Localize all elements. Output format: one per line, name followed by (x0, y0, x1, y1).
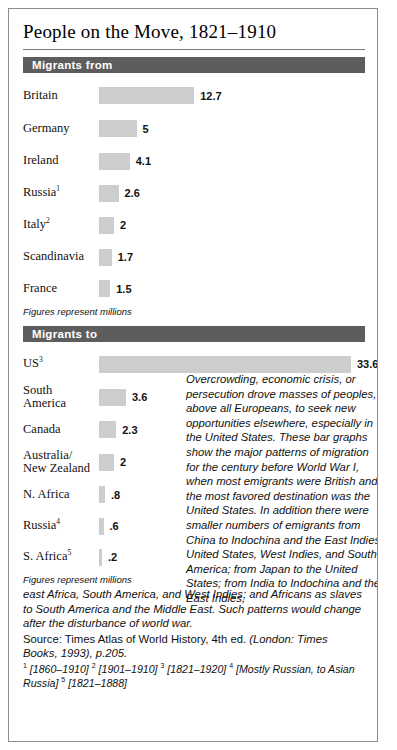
source-prefix: Source: Times Atlas of World History, 4t… (23, 633, 249, 645)
bar-label-footnote-marker: 2 (46, 216, 50, 225)
bar-track: 4.1 (99, 153, 365, 170)
footnote-2: [1901–1910] (99, 663, 158, 675)
bar-value-label: 33.6 (357, 358, 378, 370)
bar-label-footnote-marker: 3 (39, 355, 43, 364)
footnote-marker-4: 4 (229, 662, 233, 669)
bar-category-label: France (23, 282, 99, 296)
bar-label-footnote-marker: 1 (56, 184, 60, 193)
bar (99, 185, 119, 202)
bar-value-label: 5 (143, 123, 149, 135)
bar (99, 454, 114, 471)
bar-label-footnote-marker: 5 (67, 548, 71, 557)
bar-label-footnote-marker: 4 (56, 517, 60, 526)
bar-category-label: Russia1 (23, 186, 99, 200)
bar-category-label: Scandinavia (23, 250, 99, 264)
bar-row: Russia12.6 (23, 177, 365, 209)
source-citation: Source: Times Atlas of World History, 4t… (23, 632, 365, 661)
bar-category-label: Germany (23, 122, 99, 136)
bar-row: Germany5 (23, 112, 365, 145)
bar (99, 120, 137, 137)
chart-migrants-from: Migrants from Britain12.7Germany5Ireland… (23, 57, 365, 317)
section-header-migrants-from: Migrants from (23, 57, 365, 73)
bar-value-label: 2.3 (122, 424, 137, 436)
bar-category-label: Ireland (23, 154, 99, 168)
bar (99, 249, 112, 266)
footnote-marker-1: 1 (23, 662, 27, 669)
bar-track: 1.7 (99, 249, 365, 266)
figure-title: People on the Move, 1821–1910 (23, 21, 365, 43)
bar-track: 5 (99, 120, 365, 137)
bar (99, 87, 194, 104)
bar-rows-migrants-from: Britain12.7Germany5Ireland4.1Russia12.6I… (23, 79, 365, 304)
bar-track: 2.6 (99, 185, 365, 202)
bar-value-label: .2 (108, 551, 117, 563)
bar-track: 2 (99, 217, 365, 234)
bar-value-label: 2 (120, 456, 126, 468)
bar-value-label: 2 (120, 219, 126, 231)
figure-inner: People on the Move, 1821–1910 Migrants f… (9, 21, 377, 690)
bar-value-label: 1.7 (118, 251, 133, 263)
bar-category-label: Australia/ New Zealand (23, 449, 99, 476)
bar (99, 549, 102, 566)
bar (99, 389, 126, 406)
title-divider (23, 49, 365, 50)
bar-value-label: 2.6 (125, 187, 140, 199)
bar (99, 153, 130, 170)
bar-category-label: Britain (23, 89, 99, 103)
bar (99, 486, 105, 503)
footnote-5: [1821–1888] (68, 677, 127, 689)
footnote-3: [1821–1920] (167, 663, 226, 675)
lower-section: Migrants to US333.6South America3.6Canad… (23, 326, 365, 585)
bar-track: 33.6 (99, 356, 378, 373)
bar-category-label: S. Africa5 (23, 550, 99, 564)
bar (99, 356, 351, 373)
bar-category-label: Russia4 (23, 519, 99, 533)
bar (99, 421, 116, 438)
footnote-1: [1860–1910] (30, 663, 89, 675)
bar (99, 280, 110, 297)
bar-row: Britain12.7 (23, 79, 365, 112)
bar-value-label: 12.7 (200, 90, 221, 102)
description-text-column: Overcrowding, economic crisis, or persec… (186, 372, 378, 606)
bar (99, 518, 104, 535)
bar-row: Ireland4.1 (23, 145, 365, 177)
bar-track: 12.7 (99, 87, 365, 104)
footnote-marker-3: 3 (160, 662, 164, 669)
bar-category-label: Italy2 (23, 218, 99, 232)
bar-category-label: Canada (23, 423, 99, 437)
bar-value-label: 3.6 (132, 391, 147, 403)
section-header-migrants-to: Migrants to (23, 326, 365, 342)
bar-value-label: 1.5 (116, 283, 131, 295)
bar-row: Italy22 (23, 209, 365, 241)
bar-value-label: .6 (110, 520, 119, 532)
bar (99, 217, 114, 234)
bar-row: Scandinavia1.7 (23, 241, 365, 273)
bar-category-label: N. Africa (23, 488, 99, 502)
figure-panel: People on the Move, 1821–1910 Migrants f… (8, 8, 378, 742)
footnote-marker-2: 2 (92, 662, 96, 669)
bar-value-label: .8 (111, 489, 120, 501)
footnotes-block: 1 [1860–1910] 2 [1901–1910] 3 [1821–1920… (23, 662, 365, 690)
bar-row: France1.5 (23, 273, 365, 304)
bar-value-label: 4.1 (136, 155, 151, 167)
bar-category-label: South America (23, 384, 99, 411)
bar-category-label: US3 (23, 357, 99, 371)
bar-track: 1.5 (99, 280, 365, 297)
footnote-marker-5: 5 (61, 677, 65, 684)
figures-note-from: Figures represent millions (23, 306, 365, 317)
